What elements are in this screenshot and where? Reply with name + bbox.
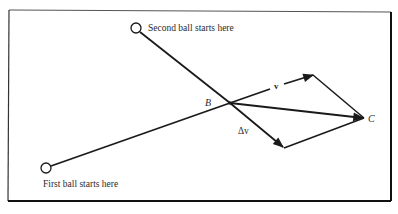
delta-velocity-label: Δv <box>238 126 249 136</box>
delta-velocity-vector <box>230 103 283 147</box>
second-ball-path <box>140 32 230 103</box>
second-ball-icon <box>131 23 141 33</box>
resultant-vector <box>230 103 363 118</box>
collision-vector-diagram: Second ball starts here First ball start… <box>0 0 398 214</box>
velocity-vector <box>230 75 313 103</box>
first-ball-icon <box>41 163 51 173</box>
point-b-label: B <box>205 97 211 108</box>
second-ball-label: Second ball starts here <box>148 23 234 33</box>
velocity-label: v <box>274 81 279 91</box>
point-c-label: C <box>368 113 375 124</box>
point-b-marker <box>228 101 232 105</box>
parallelogram-sides <box>284 75 364 148</box>
first-ball-path <box>51 103 230 166</box>
first-ball-label: First ball starts here <box>43 179 118 189</box>
frame <box>8 10 391 201</box>
